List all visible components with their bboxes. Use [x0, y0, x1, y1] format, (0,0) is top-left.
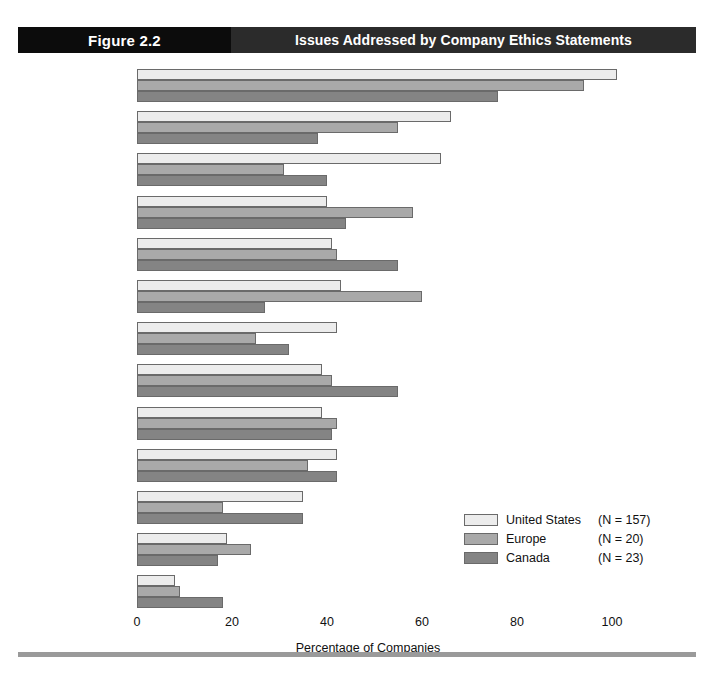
legend-sample-size: (N = 157)	[598, 513, 650, 527]
x-axis: 020406080100 Percentage of Companies	[0, 615, 714, 675]
bar-canada	[137, 175, 327, 186]
bar-europe	[137, 460, 308, 471]
bar-us	[137, 407, 322, 418]
x-tick-label: 80	[510, 615, 524, 629]
bar-us	[137, 111, 451, 122]
bar-us	[137, 238, 332, 249]
bar-us	[137, 533, 227, 544]
chart-legend: United States(N = 157)Europe(N = 20)Cana…	[464, 510, 679, 567]
bar-us	[137, 491, 303, 502]
bar-us	[137, 364, 322, 375]
x-tick-label: 0	[134, 615, 141, 629]
legend-item-canada[interactable]: Canada(N = 23)	[464, 548, 679, 567]
figure-header-banner: Figure 2.2 Issues Addressed by Company E…	[18, 27, 696, 53]
bar-europe	[137, 586, 180, 597]
bar-canada	[137, 218, 346, 229]
legend-swatch-icon	[464, 514, 498, 526]
legend-label: United States	[506, 513, 598, 527]
legend-item-us[interactable]: United States(N = 157)	[464, 510, 679, 529]
bar-canada	[137, 344, 289, 355]
legend-sample-size: (N = 23)	[598, 551, 644, 565]
footer-rule	[18, 652, 696, 657]
legend-swatch-icon	[464, 533, 498, 545]
legend-sample-size: (N = 20)	[598, 532, 644, 546]
bar-us	[137, 449, 337, 460]
bar-europe	[137, 207, 413, 218]
bar-us	[137, 575, 175, 586]
figure-number-label: Figure 2.2	[88, 32, 161, 49]
bar-canada	[137, 302, 265, 313]
bar-canada	[137, 133, 318, 144]
bar-us	[137, 153, 441, 164]
bar-europe	[137, 502, 223, 513]
legend-label: Canada	[506, 551, 598, 565]
figure-number-block: Figure 2.2	[18, 27, 231, 53]
legend-label: Europe	[506, 532, 598, 546]
bar-us	[137, 196, 327, 207]
bar-europe	[137, 80, 584, 91]
bar-europe	[137, 249, 337, 260]
x-tick-label: 20	[225, 615, 239, 629]
bar-canada	[137, 471, 337, 482]
bar-canada	[137, 386, 398, 397]
chart-plot-area: Fundamental guidingprinciples of company…	[0, 60, 714, 620]
bar-europe	[137, 122, 398, 133]
bar-europe	[137, 291, 422, 302]
bar-canada	[137, 555, 218, 566]
legend-swatch-icon	[464, 552, 498, 564]
bar-canada	[137, 597, 223, 608]
bar-us	[137, 322, 337, 333]
bar-canada	[137, 260, 398, 271]
bar-canada	[137, 429, 332, 440]
bar-europe	[137, 375, 332, 386]
bar-us	[137, 69, 617, 80]
legend-item-europe[interactable]: Europe(N = 20)	[464, 529, 679, 548]
x-tick-label: 40	[320, 615, 334, 629]
x-tick-label: 100	[602, 615, 623, 629]
bar-europe	[137, 418, 337, 429]
bar-us	[137, 280, 341, 291]
figure-title: Issues Addressed by Company Ethics State…	[231, 27, 696, 53]
bar-canada	[137, 91, 498, 102]
bar-europe	[137, 544, 251, 555]
bar-europe	[137, 164, 284, 175]
bar-canada	[137, 513, 303, 524]
bar-europe	[137, 333, 256, 344]
x-tick-label: 60	[415, 615, 429, 629]
